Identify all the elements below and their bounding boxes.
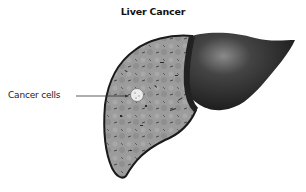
tumor — [131, 89, 144, 102]
liver-illustration — [0, 0, 306, 192]
left-lobe-cut-surface — [104, 36, 196, 178]
right-lobe — [185, 33, 295, 110]
